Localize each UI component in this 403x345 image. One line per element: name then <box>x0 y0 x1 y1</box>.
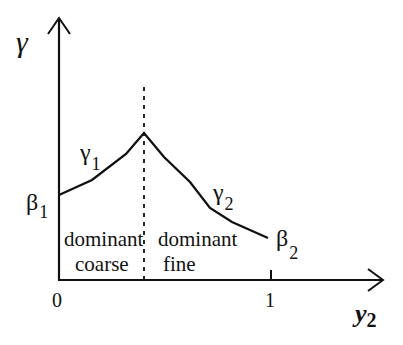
x-tick-label-0: 0 <box>52 289 62 311</box>
beta1-label: β1 <box>26 189 48 222</box>
y-axis-label: γ <box>16 25 29 58</box>
x-axis-label: y2 <box>352 299 377 331</box>
region-left-line1: dominant <box>64 227 143 251</box>
gamma2-label: γ2 <box>212 179 234 214</box>
beta2-label: β2 <box>276 225 298 263</box>
region-right-line1: dominant <box>158 227 237 251</box>
diagram-canvas: γ γ1 γ2 β1 β2 dominant coarse dominant f… <box>0 0 403 345</box>
x-tick-label-1: 1 <box>265 289 275 311</box>
region-right-line2: fine <box>163 252 196 276</box>
region-left-line2: coarse <box>75 252 129 276</box>
gamma1-label: γ1 <box>79 139 101 174</box>
